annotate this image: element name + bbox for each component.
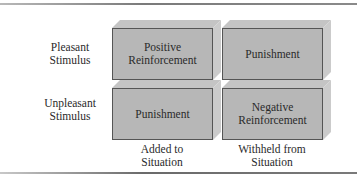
cell-text-line: Negative	[238, 101, 306, 114]
box-side-face	[323, 80, 331, 140]
box-side-face	[213, 80, 221, 140]
cell-negative-reinforcement: Negative Reinforcement	[222, 88, 323, 140]
box-top-face	[222, 80, 331, 88]
row-label-unpleasant-stimulus: Unpleasant Stimulus	[30, 97, 110, 123]
box-front-face: Punishment	[112, 88, 213, 140]
box-top-face	[112, 20, 221, 28]
box-front-face: Positive Reinforcement	[112, 28, 213, 80]
box-top-face	[222, 20, 331, 28]
cell-positive-reinforcement: Positive Reinforcement	[112, 28, 213, 80]
cell-punishment-withheld-pleasant: Punishment	[222, 28, 323, 80]
top-rule	[0, 3, 357, 5]
row-label-line: Stimulus	[30, 110, 110, 123]
cell-text-line: Reinforcement	[128, 54, 196, 67]
box-front-face: Negative Reinforcement	[222, 88, 323, 140]
row-label-line: Unpleasant	[30, 97, 110, 110]
column-label-added-to-situation: Added to Situation	[112, 143, 212, 169]
column-label-withheld-from-situation: Withheld from Situation	[222, 143, 322, 169]
cell-text-line: Reinforcement	[238, 114, 306, 127]
cell-text-line: Punishment	[135, 108, 189, 121]
column-label-line: Added to	[112, 143, 212, 156]
box-top-face	[112, 80, 221, 88]
box-front-face: Punishment	[222, 28, 323, 80]
box-side-face	[323, 20, 331, 80]
row-label-pleasant-stimulus: Pleasant Stimulus	[30, 41, 110, 67]
column-label-line: Situation	[222, 156, 322, 169]
cell-text-line: Positive	[128, 41, 196, 54]
row-label-line: Stimulus	[30, 54, 110, 67]
row-label-line: Pleasant	[30, 41, 110, 54]
cell-text-line: Punishment	[245, 48, 299, 61]
column-label-line: Situation	[112, 156, 212, 169]
bottom-rule	[0, 172, 357, 174]
column-label-line: Withheld from	[222, 143, 322, 156]
cell-punishment-added-unpleasant: Punishment	[112, 88, 213, 140]
box-side-face	[213, 20, 221, 80]
